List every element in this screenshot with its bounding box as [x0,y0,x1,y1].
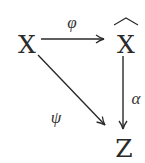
node-z: Z [115,136,132,161]
label-alpha: α [132,90,141,107]
node-x-hat: X [117,32,135,57]
wide-hat-icon [114,18,138,25]
commutative-diagram: X X Z φ ψ α [0,0,145,163]
arrow-psi [38,55,105,125]
node-x: X [18,32,36,57]
label-psi: ψ [51,109,62,126]
label-phi: φ [67,14,76,31]
